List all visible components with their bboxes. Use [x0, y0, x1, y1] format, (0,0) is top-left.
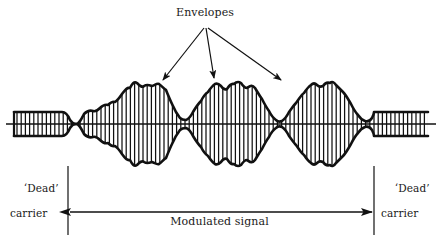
envelopes-label: Envelopes	[176, 7, 234, 20]
lower-envelope-curve	[14, 124, 428, 166]
arrow-to-lobe-2	[206, 28, 214, 78]
waveform-figure	[0, 0, 439, 246]
dead-carrier-right-label: ‘Dead’ carrier	[381, 169, 430, 244]
am-modulation-diagram: Envelopes ‘Dead’ carrier ‘Dead’ carrier …	[0, 0, 439, 246]
dead-carrier-right-line1: ‘Dead’	[395, 182, 430, 194]
envelope-annotation-arrows	[163, 28, 281, 80]
arrow-to-lobe-3	[208, 28, 281, 80]
upper-envelope-curve	[14, 82, 428, 124]
modulated-signal-label: Modulated signal	[0, 216, 439, 229]
dead-carrier-left-line1: ‘Dead’	[24, 182, 59, 194]
arrow-to-lobe-1	[163, 28, 204, 80]
dead-carrier-left-label: ‘Dead’ carrier	[10, 169, 59, 244]
